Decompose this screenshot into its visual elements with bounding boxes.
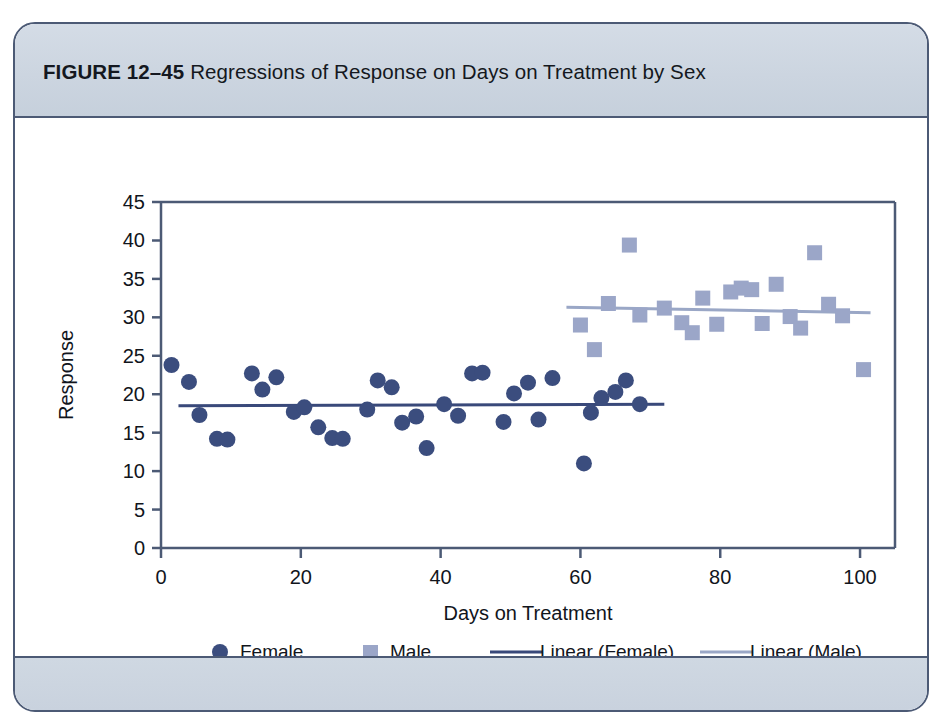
y-tick-label: 35: [123, 268, 145, 290]
data-point-female: [632, 396, 648, 412]
data-point-male: [695, 291, 710, 306]
data-point-male: [709, 317, 724, 332]
data-point-female: [254, 382, 270, 398]
data-point-female: [506, 385, 522, 401]
data-point-female: [310, 419, 326, 435]
y-tick-label: 25: [123, 345, 145, 367]
data-point-female: [163, 357, 179, 373]
y-tick-label: 45: [123, 191, 145, 213]
x-tick-label: 40: [429, 566, 451, 588]
x-tick-label: 20: [290, 566, 312, 588]
data-point-male: [601, 296, 616, 311]
data-point-male: [622, 238, 637, 253]
figure-number: FIGURE 12–45: [43, 60, 184, 83]
x-axis-title: Days on Treatment: [444, 602, 613, 624]
y-tick-label: 10: [123, 460, 145, 482]
data-point-female: [576, 455, 592, 471]
data-point-female: [219, 432, 235, 448]
figure-frame: FIGURE 12–45 Regressions of Response on …: [13, 22, 929, 712]
data-point-female: [475, 365, 491, 381]
data-point-female: [618, 372, 634, 388]
data-point-female: [583, 405, 599, 421]
data-point-male: [755, 316, 770, 331]
data-point-female: [296, 399, 312, 415]
figure-title: Regressions of Response on Days on Treat…: [190, 60, 706, 83]
plot-area: 051015202530354045020406080100 Days on T…: [15, 120, 929, 660]
data-point-female: [244, 365, 260, 381]
data-point-male: [632, 308, 647, 323]
chart-ticks: [152, 202, 860, 558]
data-point-female: [544, 370, 560, 386]
y-tick-label: 40: [123, 229, 145, 251]
figure-header-band: FIGURE 12–45 Regressions of Response on …: [15, 24, 927, 118]
x-tick-label: 60: [569, 566, 591, 588]
y-tick-label: 20: [123, 383, 145, 405]
data-point-male: [835, 308, 850, 323]
data-point-female: [359, 402, 375, 418]
data-point-male: [793, 321, 808, 336]
data-point-female: [384, 379, 400, 395]
y-tick-label: 0: [134, 537, 145, 559]
data-point-male: [587, 342, 602, 357]
data-point-female: [436, 396, 452, 412]
figure-footer-band: [15, 656, 927, 710]
data-point-female: [268, 369, 284, 385]
data-point-female: [191, 407, 207, 423]
data-point-female: [496, 414, 512, 430]
data-point-male: [769, 277, 784, 292]
figure-caption: FIGURE 12–45 Regressions of Response on …: [43, 60, 706, 84]
x-tick-label: 80: [709, 566, 731, 588]
data-point-male: [573, 318, 588, 333]
data-point-male: [821, 297, 836, 312]
chart-data-points: [163, 238, 871, 472]
x-tick-label: 0: [155, 566, 166, 588]
y-tick-label: 15: [123, 422, 145, 444]
data-point-male: [807, 245, 822, 260]
data-point-female: [335, 431, 351, 447]
data-point-female: [530, 412, 546, 428]
data-point-female: [450, 408, 466, 424]
data-point-male: [744, 282, 759, 297]
data-point-female: [394, 415, 410, 431]
data-point-male: [685, 325, 700, 340]
data-point-female: [370, 372, 386, 388]
y-tick-label: 5: [134, 499, 145, 521]
data-point-male: [657, 301, 672, 316]
data-point-female: [520, 375, 536, 391]
data-point-male: [856, 362, 871, 377]
y-tick-label: 30: [123, 306, 145, 328]
y-axis-title: Response: [55, 330, 77, 420]
data-point-female: [181, 374, 197, 390]
data-point-female: [593, 390, 609, 406]
chart-tick-labels: 051015202530354045020406080100: [123, 191, 877, 588]
data-point-female: [419, 440, 435, 456]
data-point-female: [408, 409, 424, 425]
scatter-chart: 051015202530354045020406080100 Days on T…: [15, 120, 929, 660]
x-tick-label: 100: [843, 566, 876, 588]
